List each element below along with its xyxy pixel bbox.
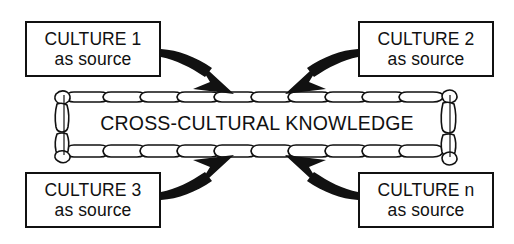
arrow-culture-n xyxy=(285,155,358,200)
arrow-culture-1 xyxy=(161,49,234,94)
banner-title-text: CROSS-CULTURAL KNOWLEDGE xyxy=(100,112,414,135)
culture-box-subtitle: as source xyxy=(55,50,132,68)
banner-title: CROSS-CULTURAL KNOWLEDGE xyxy=(62,105,452,141)
culture-box-title: CULTURE 1 xyxy=(45,30,142,48)
culture-box-culture-n[interactable]: CULTURE n as source xyxy=(358,172,494,228)
culture-box-culture-2[interactable]: CULTURE 2 as source xyxy=(358,21,494,77)
culture-box-culture-1[interactable]: CULTURE 1 as source xyxy=(25,21,161,77)
banner-bottom-rail xyxy=(66,145,444,157)
cross-cultural-knowledge-diagram: CROSS-CULTURAL KNOWLEDGE CULTURE 1 as so… xyxy=(0,0,514,244)
culture-box-title: CULTURE 3 xyxy=(45,181,142,199)
culture-box-subtitle: as source xyxy=(55,201,132,219)
banner-top-rail xyxy=(66,92,444,102)
culture-box-title: CULTURE 2 xyxy=(378,30,475,48)
culture-box-title: CULTURE n xyxy=(378,181,475,199)
arrow-culture-2 xyxy=(285,49,358,94)
arrow-culture-3 xyxy=(161,155,234,200)
culture-box-subtitle: as source xyxy=(388,50,465,68)
culture-box-culture-3[interactable]: CULTURE 3 as source xyxy=(25,172,161,228)
culture-box-subtitle: as source xyxy=(388,201,465,219)
